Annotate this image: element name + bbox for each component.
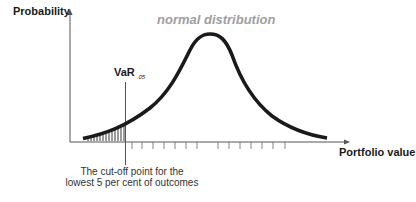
x-axis-label: Portfolio value — [339, 146, 415, 158]
distribution-curve — [83, 34, 327, 139]
y-axis — [68, 9, 73, 142]
caption-line-2: lowest 5 per cent of outcomes — [62, 177, 202, 188]
x-axis-arrow-icon — [344, 140, 350, 145]
var-subscript: .05 — [137, 74, 145, 80]
y-axis-label: Probability — [13, 5, 70, 17]
x-axis-ticks — [132, 142, 285, 149]
cutoff-caption: The cut-off point for the lowest 5 per c… — [62, 166, 202, 188]
caption-line-1: The cut-off point for the — [62, 166, 202, 177]
var-label: VaR.05 — [114, 66, 145, 80]
chart-title: normal distribution — [157, 12, 275, 27]
var-label-text: VaR — [114, 66, 135, 78]
var-diagram: Probability normal distribution VaR.05 P… — [0, 0, 416, 202]
